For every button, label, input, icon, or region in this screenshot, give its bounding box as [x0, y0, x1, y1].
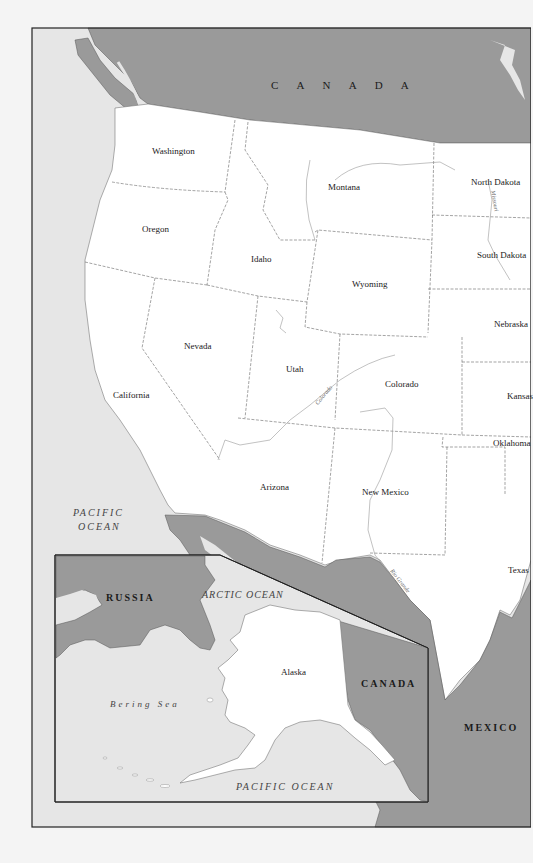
label-oklahoma: Oklahoma	[493, 439, 531, 448]
label-canada-inset: CANADA	[361, 679, 416, 689]
label-kansas: Kansas	[507, 392, 533, 401]
label-washington: Washington	[152, 147, 195, 156]
label-canada: C A N A D A	[271, 80, 417, 91]
label-wyoming: Wyoming	[352, 280, 387, 289]
label-mexico: MEXICO	[464, 723, 518, 733]
label-pacific-ocean-line1: PACIFIC	[73, 508, 124, 518]
label-pacific-ocean-line2: OCEAN	[78, 522, 121, 532]
label-pacific-ocean-inset: PACIFIC OCEAN	[236, 782, 334, 792]
label-oregon: Oregon	[142, 225, 169, 234]
label-alaska: Alaska	[281, 668, 306, 677]
label-nevada: Nevada	[184, 342, 211, 351]
label-arizona: Arizona	[260, 483, 289, 492]
label-north-dakota: North Dakota	[471, 178, 520, 187]
label-texas: Texas	[508, 566, 529, 575]
label-south-dakota: South Dakota	[477, 251, 526, 260]
label-russia: RUSSIA	[106, 593, 155, 603]
label-utah: Utah	[286, 365, 304, 374]
label-california: California	[113, 391, 150, 400]
label-nebraska: Nebraska	[494, 320, 528, 329]
label-colorado: Colorado	[385, 380, 419, 389]
label-idaho: Idaho	[251, 255, 272, 264]
label-bering-sea: Bering Sea	[110, 700, 180, 709]
label-new-mexico: New Mexico	[362, 488, 409, 497]
label-arctic-ocean: ARCTIC OCEAN	[202, 590, 284, 600]
label-montana: Montana	[328, 183, 360, 192]
